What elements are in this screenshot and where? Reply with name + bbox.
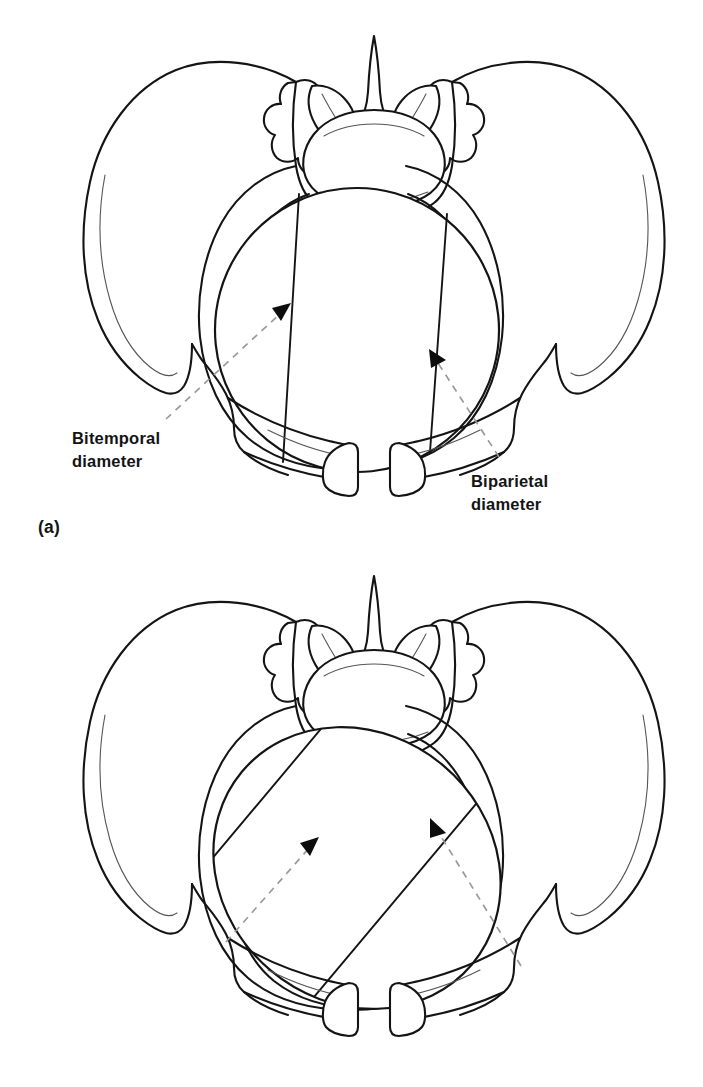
label-biparietal-diameter-a: Biparietal diameter	[471, 470, 548, 517]
panel-letter-a: (a)	[38, 517, 60, 538]
panel-a: Bitemporal diameter Biparietal diameter …	[0, 0, 703, 560]
panel-b: Bitemporal diameter Biparietal diameter …	[0, 546, 703, 1087]
label-bitemporal-diameter-a: Bitemporal diameter	[72, 427, 160, 474]
pelvis-diagram-a	[0, 0, 703, 560]
fetal-head-group-a	[201, 174, 513, 486]
figure-page: Bitemporal diameter Biparietal diameter …	[0, 0, 703, 1087]
pelvis-diagram-b	[0, 546, 703, 1087]
fetal-head-outline	[201, 174, 513, 486]
